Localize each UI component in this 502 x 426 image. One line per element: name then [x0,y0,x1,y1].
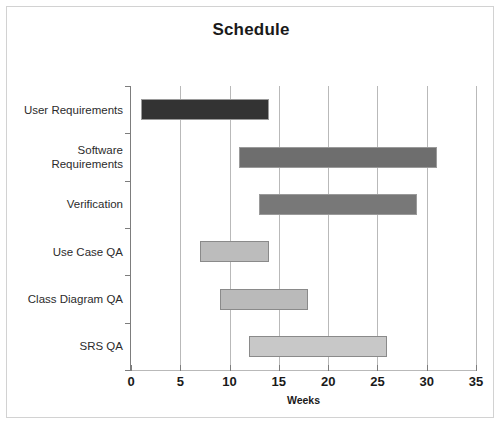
y-axis-label: User Requirements [0,103,131,117]
y-axis-label-line: Use Case QA [0,245,123,259]
x-axis-tick-label: 30 [407,374,447,389]
x-axis-tick-label: 35 [456,374,496,389]
y-axis-label: Verification [0,197,131,211]
y-axis-label: SRS QA [0,339,131,353]
y-axis-label: Use Case QA [0,245,131,259]
y-axis-label-line: User Requirements [0,103,123,117]
schedule-gantt-figure: Schedule User RequirementsSoftwareRequir… [0,0,502,426]
x-axis-tick-label: 0 [111,374,151,389]
x-axis-tick-label: 10 [210,374,250,389]
x-axis-title: Weeks [131,394,476,406]
y-axis-label-line: SRS QA [0,339,123,353]
y-axis-label-line: Requirements [0,157,123,171]
y-axis-labels-group: User RequirementsSoftwareRequirementsVer… [0,0,502,426]
x-axis-tick-label: 25 [357,374,397,389]
y-axis-label: SoftwareRequirements [0,143,131,171]
y-axis-label-line: Class Diagram QA [0,292,123,306]
x-axis-tick-label: 20 [308,374,348,389]
x-axis-tick-label: 15 [259,374,299,389]
y-axis-label: Class Diagram QA [0,292,131,306]
y-axis-label-line: Verification [0,197,123,211]
y-axis-label-line: Software [0,143,123,157]
x-axis-tick-label: 5 [160,374,200,389]
